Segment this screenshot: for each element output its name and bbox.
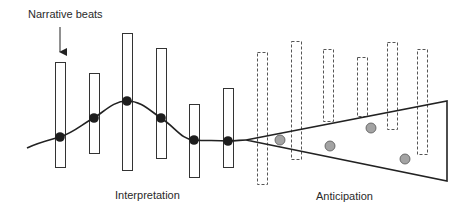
beat-dot-4 [156,113,166,123]
beat-bar-4 [157,49,167,159]
beat-dot-1 [55,132,65,142]
narrative-diagram: Narrative beats Interpretation Anticipat… [0,0,471,212]
interpretation-label: Interpretation [115,190,180,201]
anticipation-label: Anticipation [316,191,373,202]
beat-dot-5 [189,135,199,145]
predicted-bar-5 [388,43,398,130]
beat-dots [55,96,233,146]
predicted-bar-3 [324,50,334,122]
predicted-bar-4 [358,58,368,117]
predicted-dot-1 [275,135,285,145]
beat-bar-1 [56,63,66,168]
predicted-bar-6 [418,50,428,155]
beat-dot-3 [122,96,132,106]
beat-dot-6 [223,136,233,146]
predicted-dot-2 [325,141,335,151]
predicted-bar-2 [292,42,302,160]
predicted-dots [275,123,410,164]
predicted-bar-1 [258,53,268,185]
narrative-beats-label: Narrative beats [28,9,103,20]
beat-bar-6 [224,89,234,168]
predicted-dot-4 [400,154,410,164]
beat-dot-2 [89,113,99,123]
predicted-dot-3 [366,123,376,133]
diagram-canvas [0,0,471,212]
